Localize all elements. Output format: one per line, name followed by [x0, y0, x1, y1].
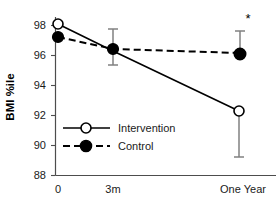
legend-label-intervention: Intervention: [118, 122, 175, 134]
datapoint-intervention-0: [53, 19, 63, 29]
chart-legend: Intervention Control: [63, 122, 175, 152]
legend-label-control: Control: [118, 140, 153, 152]
legend-entry-control: Control: [63, 140, 153, 152]
datapoint-intervention-one-year: [234, 106, 244, 116]
chart-canvas: 98 96 94 92 90 88 0 3m One Year BMI %ile: [0, 0, 280, 205]
datapoint-control-3m: [108, 44, 119, 55]
legend-marker-intervention: [81, 123, 91, 133]
x-tick-label-0: 0: [55, 183, 61, 195]
y-tick-label-92: 92: [34, 109, 46, 121]
y-axis-title: BMI %ile: [4, 73, 16, 120]
errorbars-control: [108, 29, 245, 65]
series-line-control: [58, 37, 240, 53]
legend-entry-intervention: Intervention: [63, 122, 175, 134]
x-tick-label-one-year: One Year: [220, 183, 266, 195]
legend-marker-control: [80, 140, 91, 151]
x-tick-label-3m: 3m: [105, 183, 120, 195]
y-tick-label-88: 88: [34, 169, 46, 181]
errorbars-intervention: [234, 111, 244, 157]
significance-star-annotation: *: [245, 11, 250, 26]
datapoint-control-0: [53, 32, 64, 43]
series-line-intervention: [58, 24, 239, 111]
y-tick-label-98: 98: [34, 19, 46, 31]
bmi-percentile-line-chart: 98 96 94 92 90 88 0 3m One Year BMI %ile: [0, 0, 280, 205]
y-tick-label-90: 90: [34, 139, 46, 151]
y-tick-label-96: 96: [34, 49, 46, 61]
datapoint-control-one-year: [234, 48, 246, 60]
y-tick-labels: 98 96 94 92 90 88: [34, 19, 46, 181]
y-tick-label-94: 94: [34, 79, 46, 91]
x-tick-labels: 0 3m One Year: [55, 183, 266, 195]
